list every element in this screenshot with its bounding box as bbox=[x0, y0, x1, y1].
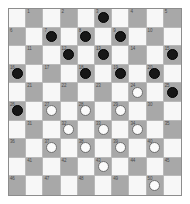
board-square-5[interactable]: 5 bbox=[164, 9, 181, 28]
black-piece[interactable] bbox=[12, 68, 23, 79]
board-square-31[interactable]: 31 bbox=[26, 121, 43, 140]
board-square-4[interactable]: 4 bbox=[129, 9, 146, 28]
board-square-light-r5c1[interactable] bbox=[9, 83, 26, 102]
white-piece[interactable] bbox=[80, 105, 91, 116]
board-square-44[interactable]: 44 bbox=[129, 158, 146, 177]
board-square-light-r8c4[interactable] bbox=[61, 139, 78, 158]
board-square-34[interactable]: 34 bbox=[129, 121, 146, 140]
board-square-38[interactable]: 38 bbox=[78, 139, 95, 158]
board-square-19[interactable]: 19 bbox=[112, 65, 129, 84]
board-square-42[interactable]: 42 bbox=[61, 158, 78, 177]
board-square-light-r5c5[interactable] bbox=[78, 83, 95, 102]
board-square-2[interactable]: 2 bbox=[61, 9, 78, 28]
board-square-1[interactable]: 1 bbox=[26, 9, 43, 28]
black-piece[interactable] bbox=[12, 105, 23, 116]
white-piece[interactable] bbox=[63, 124, 74, 135]
board-square-33[interactable]: 33 bbox=[95, 121, 112, 140]
board-square-light-r4c6[interactable] bbox=[95, 65, 112, 84]
board-square-light-r6c6[interactable] bbox=[95, 102, 112, 121]
board-square-light-r2c4[interactable] bbox=[61, 28, 78, 47]
board-square-36[interactable]: 36 bbox=[9, 139, 26, 158]
board-square-light-r8c2[interactable] bbox=[26, 139, 43, 158]
board-square-26[interactable]: 26 bbox=[9, 102, 26, 121]
white-piece[interactable] bbox=[132, 124, 143, 135]
board-square-light-r1c7[interactable] bbox=[112, 9, 129, 28]
board-square-light-r4c4[interactable] bbox=[61, 65, 78, 84]
board-square-light-r6c10[interactable] bbox=[164, 102, 181, 121]
board-square-27[interactable]: 27 bbox=[43, 102, 60, 121]
board-square-light-r9c7[interactable] bbox=[112, 158, 129, 177]
board-square-3[interactable]: 3 bbox=[95, 9, 112, 28]
board-square-light-r10c2[interactable] bbox=[26, 176, 43, 195]
board-square-light-r7c3[interactable] bbox=[43, 121, 60, 140]
board-square-light-r10c4[interactable] bbox=[61, 176, 78, 195]
black-piece[interactable] bbox=[115, 31, 126, 42]
board-square-7[interactable]: 7 bbox=[43, 28, 60, 47]
board-square-17[interactable]: 17 bbox=[43, 65, 60, 84]
board-square-light-r7c7[interactable] bbox=[112, 121, 129, 140]
board-square-40[interactable]: 40 bbox=[147, 139, 164, 158]
white-piece[interactable] bbox=[149, 142, 160, 153]
board-square-light-r7c5[interactable] bbox=[78, 121, 95, 140]
board-square-light-r2c8[interactable] bbox=[129, 28, 146, 47]
board-square-41[interactable]: 41 bbox=[26, 158, 43, 177]
white-piece[interactable] bbox=[98, 124, 109, 135]
black-piece[interactable] bbox=[167, 49, 178, 60]
board-square-11[interactable]: 11 bbox=[26, 46, 43, 65]
board-square-25[interactable]: 25 bbox=[164, 83, 181, 102]
board-square-32[interactable]: 32 bbox=[61, 121, 78, 140]
board-square-8[interactable]: 8 bbox=[78, 28, 95, 47]
board-square-light-r3c7[interactable] bbox=[112, 46, 129, 65]
board-square-48[interactable]: 48 bbox=[78, 176, 95, 195]
board-square-22[interactable]: 22 bbox=[61, 83, 78, 102]
board-square-light-r4c10[interactable] bbox=[164, 65, 181, 84]
white-piece[interactable] bbox=[115, 105, 126, 116]
board-square-light-r8c6[interactable] bbox=[95, 139, 112, 158]
board-square-light-r9c5[interactable] bbox=[78, 158, 95, 177]
board-square-light-r10c6[interactable] bbox=[95, 176, 112, 195]
white-piece[interactable] bbox=[132, 87, 143, 98]
board-square-30[interactable]: 30 bbox=[147, 102, 164, 121]
board-square-light-r1c1[interactable] bbox=[9, 9, 26, 28]
board-square-light-r1c9[interactable] bbox=[147, 9, 164, 28]
board-square-16[interactable]: 16 bbox=[9, 65, 26, 84]
board-square-light-r5c9[interactable] bbox=[147, 83, 164, 102]
white-piece[interactable] bbox=[46, 142, 57, 153]
black-piece[interactable] bbox=[98, 49, 109, 60]
black-piece[interactable] bbox=[80, 31, 91, 42]
board-square-light-r4c8[interactable] bbox=[129, 65, 146, 84]
board-square-49[interactable]: 49 bbox=[112, 176, 129, 195]
board-square-50[interactable]: 50 bbox=[147, 176, 164, 195]
board-square-light-r9c3[interactable] bbox=[43, 158, 60, 177]
board-square-21[interactable]: 21 bbox=[26, 83, 43, 102]
board-square-18[interactable]: 18 bbox=[78, 65, 95, 84]
board-square-light-r8c10[interactable] bbox=[164, 139, 181, 158]
board-square-35[interactable]: 35 bbox=[164, 121, 181, 140]
board-square-10[interactable]: 10 bbox=[147, 28, 164, 47]
board-square-light-r4c2[interactable] bbox=[26, 65, 43, 84]
board-square-light-r5c7[interactable] bbox=[112, 83, 129, 102]
board-square-46[interactable]: 46 bbox=[9, 176, 26, 195]
black-piece[interactable] bbox=[167, 87, 178, 98]
board-square-light-r8c8[interactable] bbox=[129, 139, 146, 158]
board-square-24[interactable]: 24 bbox=[129, 83, 146, 102]
white-piece[interactable] bbox=[98, 161, 109, 172]
board-square-47[interactable]: 47 bbox=[43, 176, 60, 195]
board-square-23[interactable]: 23 bbox=[95, 83, 112, 102]
board-square-9[interactable]: 9 bbox=[112, 28, 129, 47]
board-square-light-r3c5[interactable] bbox=[78, 46, 95, 65]
black-piece[interactable] bbox=[149, 68, 160, 79]
board-square-light-r5c3[interactable] bbox=[43, 83, 60, 102]
board-square-light-r7c1[interactable] bbox=[9, 121, 26, 140]
black-piece[interactable] bbox=[98, 12, 109, 23]
white-piece[interactable] bbox=[80, 142, 91, 153]
board-square-14[interactable]: 14 bbox=[129, 46, 146, 65]
board-square-light-r6c8[interactable] bbox=[129, 102, 146, 121]
board-square-light-r3c1[interactable] bbox=[9, 46, 26, 65]
board-square-15[interactable]: 15 bbox=[164, 46, 181, 65]
board-square-light-r7c9[interactable] bbox=[147, 121, 164, 140]
black-piece[interactable] bbox=[46, 31, 57, 42]
white-piece[interactable] bbox=[46, 105, 57, 116]
board-square-light-r2c6[interactable] bbox=[95, 28, 112, 47]
board-square-6[interactable]: 6 bbox=[9, 28, 26, 47]
